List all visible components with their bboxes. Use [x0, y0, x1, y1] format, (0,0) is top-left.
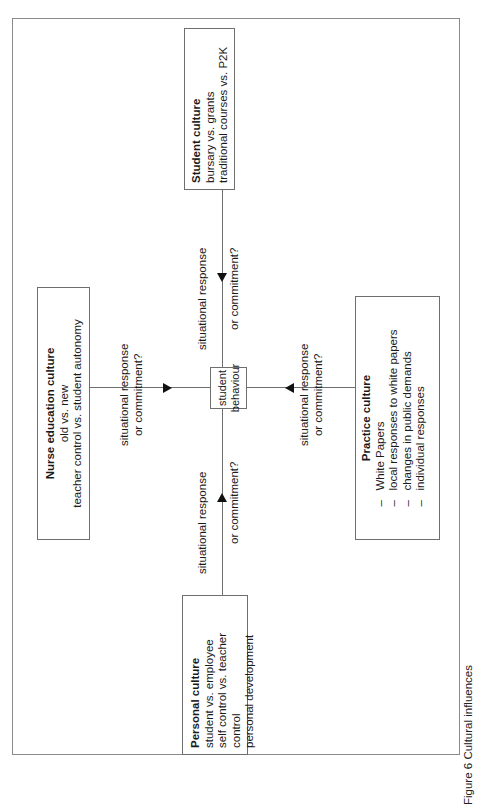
connector-nurse-to-center	[90, 387, 210, 388]
list-item: changes in public demands	[401, 329, 415, 506]
center-label-line2: behaviour	[229, 364, 242, 412]
node-line: old vs. new	[58, 294, 72, 533]
edge-label-line1: situational response	[118, 344, 132, 446]
node-title: Student culture	[190, 35, 204, 183]
node-line: bursary vs. grants	[204, 35, 218, 183]
center-node-student-behaviour: student behaviour	[210, 367, 247, 409]
node-line: student vs. employee	[203, 602, 217, 748]
practice-list: White Papers local responses to white pa…	[374, 329, 428, 506]
rotated-page: situational response or commitment? situ…	[0, 0, 480, 806]
node-nurse-education-culture: Nurse education culture old vs. new teac…	[37, 287, 90, 540]
arrow-from-nurse-icon	[163, 383, 172, 393]
node-personal-culture: Personal culture student vs. employee se…	[182, 595, 248, 755]
edge-label-line2: or commitment?	[228, 462, 242, 544]
edge-label-line1: situational response	[196, 248, 210, 350]
edge-label-nurse: situational response or commitment?	[118, 344, 145, 446]
node-title: Personal culture	[189, 602, 203, 748]
node-line: traditional courses vs. P2K	[217, 35, 231, 183]
edge-label-student: situational response	[196, 248, 210, 350]
edge-label-personal: situational response	[196, 472, 210, 574]
edge-label-line2: or commitment?	[228, 248, 242, 330]
connector-personal-to-center	[222, 409, 223, 595]
edge-label-line1: situational response	[196, 472, 210, 574]
edge-label-line2: or commitment?	[312, 344, 326, 446]
arrow-from-practice-icon	[285, 383, 294, 393]
node-practice-culture: Practice culture White Papers local resp…	[355, 296, 440, 540]
arrow-from-personal-icon	[217, 493, 227, 502]
node-line: self control vs. teacher control	[216, 602, 243, 748]
list-item: individual responses	[414, 329, 428, 506]
node-title: Nurse education culture	[44, 294, 58, 533]
center-label-line1: student	[216, 364, 229, 412]
node-title: Practice culture	[360, 303, 374, 533]
node-student-culture: Student culture bursary vs. grants tradi…	[184, 28, 235, 190]
figure-caption: Figure 6 Cultural influences	[462, 665, 474, 805]
edge-label-student-2: or commitment?	[228, 248, 242, 330]
edge-label-line1: situational response	[298, 344, 312, 446]
edge-label-line2: or commitment?	[132, 344, 146, 446]
list-item: White Papers	[374, 329, 388, 506]
arrow-from-student-icon	[217, 273, 227, 282]
node-line: teacher control vs. student autonomy	[71, 294, 85, 533]
node-line: personal development	[243, 602, 257, 748]
list-item: local responses to white papers	[387, 329, 401, 506]
edge-label-personal-2: or commitment?	[228, 462, 242, 544]
edge-label-practice: situational response or commitment?	[298, 344, 325, 446]
